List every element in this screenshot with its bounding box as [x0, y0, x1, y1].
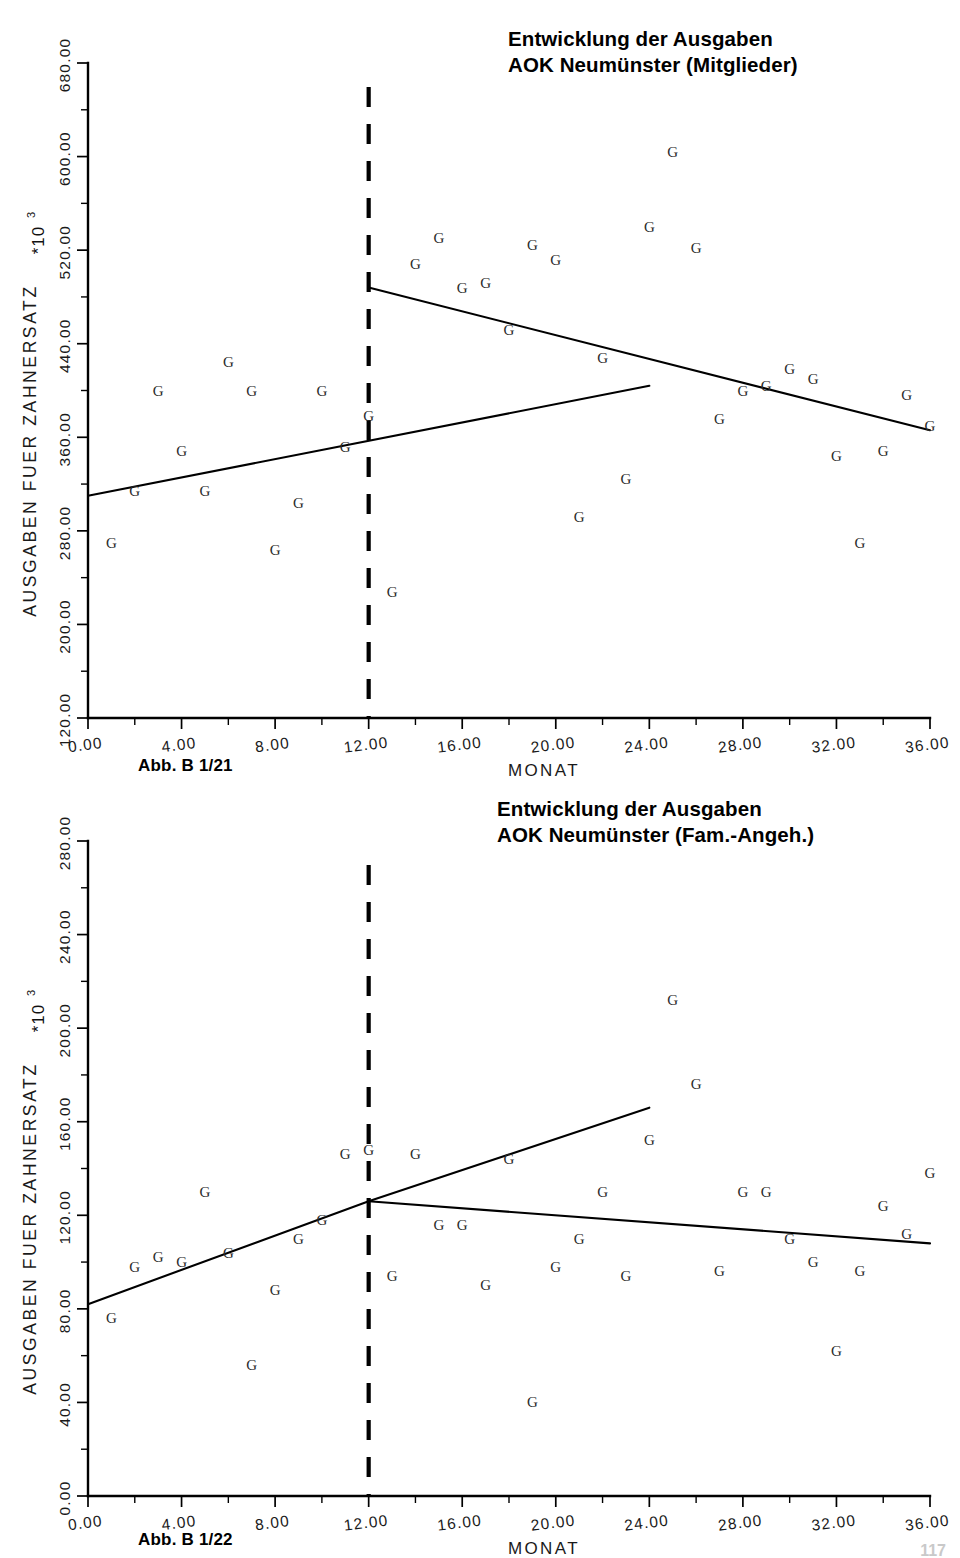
post-trend-declining-line — [369, 1201, 930, 1243]
axes — [88, 841, 930, 1496]
data-point-marker: G — [176, 1254, 187, 1270]
y-tick-label: 280.00 — [56, 816, 73, 871]
figure-title-familienangehoerige: Entwicklung der AusgabenAOK Neumünster (… — [497, 796, 814, 848]
data-point-marker: G — [550, 252, 561, 268]
data-point-marker: G — [714, 1263, 725, 1279]
data-point-marker: G — [761, 378, 772, 394]
y-tick-label: 280.00 — [56, 506, 73, 561]
y-tick-label: 40.00 — [56, 1382, 73, 1427]
x-tick-label: 16.00 — [436, 1511, 483, 1533]
x-tick-label: 8.00 — [254, 734, 291, 755]
figure-mitglieder: 0.004.008.0012.0016.0020.0024.0028.0032.… — [0, 0, 960, 780]
y-axis-title: AUSGABEN FUER ZAHNERSATZ — [20, 284, 40, 616]
data-point-marker: G — [574, 1231, 585, 1247]
data-point-marker: G — [831, 1343, 842, 1359]
data-point-marker: G — [200, 1184, 211, 1200]
data-point-marker: G — [808, 1254, 819, 1270]
data-point-marker: G — [667, 144, 678, 160]
data-point-marker: G — [784, 1231, 795, 1247]
data-point-marker: G — [644, 219, 655, 235]
x-axis-ticks: 0.004.008.0012.0016.0020.0024.0028.0032.… — [67, 1496, 951, 1534]
y-axis-title: AUSGABEN FUER ZAHNERSATZ — [20, 1062, 40, 1394]
x-tick-label: 24.00 — [623, 1511, 670, 1533]
data-point-marker: G — [410, 1146, 421, 1162]
scale-note-base: *10 — [29, 226, 48, 255]
data-point-marker: G — [550, 1259, 561, 1275]
x-tick-label: 20.00 — [530, 733, 577, 755]
data-point-marker: G — [504, 1151, 515, 1167]
data-point-marker: G — [246, 383, 257, 399]
data-point-marker: G — [761, 1184, 772, 1200]
y-tick-label: 200.00 — [56, 1003, 73, 1058]
data-point-marker: G — [925, 418, 936, 434]
y-tick-label: 440.00 — [56, 318, 73, 373]
y-axis-scale-note: *103 — [25, 990, 48, 1032]
x-tick-label: 32.00 — [811, 1511, 858, 1533]
document-page: 0.004.008.0012.0016.0020.0024.0028.0032.… — [0, 0, 960, 1558]
annotations — [88, 87, 930, 718]
data-point-marker: G — [691, 240, 702, 256]
data-point-marker: G — [714, 411, 725, 427]
figure-title-mitglieder: Entwicklung der AusgabenAOK Neumünster (… — [508, 26, 798, 78]
data-point-marker: G — [433, 230, 444, 246]
y-tick-label: 240.00 — [56, 909, 73, 964]
x-tick-label: 20.00 — [530, 1511, 577, 1533]
x-axis-ticks: 0.004.008.0012.0016.0020.0024.0028.0032.… — [67, 718, 951, 756]
data-point-marker: G — [901, 387, 912, 403]
data-point-marker: G — [691, 1076, 702, 1092]
figure-title-line2: AOK Neumünster (Mitglieder) — [508, 53, 798, 76]
data-point-marker: G — [480, 1277, 491, 1293]
x-axis-title: MONAT — [508, 1539, 580, 1558]
data-point-marker: G — [153, 383, 164, 399]
data-point-marker: G — [363, 408, 374, 424]
data-point-marker: G — [644, 1132, 655, 1148]
data-point-marker: G — [737, 1184, 748, 1200]
data-points: GGGGGGGGGGGGGGGGGGGGGGGGGGGGGGGGGGGG — [106, 144, 936, 600]
data-point-marker: G — [223, 1245, 234, 1261]
data-point-marker: G — [854, 1263, 865, 1279]
data-point-marker: G — [410, 256, 421, 272]
data-point-marker: G — [176, 443, 187, 459]
chart-canvas-familienangehoerige: 0.004.008.0012.0016.0020.0024.0028.0032.… — [0, 778, 960, 1558]
data-point-marker: G — [504, 322, 515, 338]
y-axis-ticks: 120.00200.00280.00360.00440.00520.00600.… — [56, 38, 88, 748]
x-tick-label: 36.00 — [904, 733, 951, 755]
data-point-marker: G — [854, 535, 865, 551]
data-point-marker: G — [621, 471, 632, 487]
x-tick-label: 16.00 — [436, 733, 483, 755]
y-tick-label: 0.00 — [56, 1481, 73, 1516]
figure-familienangehoerige: 0.004.008.0012.0016.0020.0024.0028.0032.… — [0, 778, 960, 1558]
x-tick-label: 12.00 — [343, 733, 390, 755]
y-tick-label: 600.00 — [56, 131, 73, 186]
data-point-marker: G — [293, 495, 304, 511]
data-point-marker: G — [293, 1231, 304, 1247]
data-point-marker: G — [200, 483, 211, 499]
axes — [88, 63, 930, 718]
data-point-marker: G — [527, 237, 538, 253]
y-axis-scale-note: *103 — [25, 212, 48, 254]
data-point-marker: G — [457, 280, 468, 296]
y-tick-label: 680.00 — [56, 38, 73, 93]
y-tick-label: 80.00 — [56, 1288, 73, 1333]
x-tick-label: 12.00 — [343, 1511, 390, 1533]
data-point-marker: G — [480, 275, 491, 291]
data-point-marker: G — [153, 1249, 164, 1265]
x-tick-label: 28.00 — [717, 733, 764, 755]
data-point-marker: G — [316, 1212, 327, 1228]
y-tick-label: 360.00 — [56, 412, 73, 467]
y-axis-ticks: 0.0040.0080.00120.00160.00200.00240.0028… — [56, 816, 88, 1516]
data-point-marker: G — [808, 371, 819, 387]
data-point-marker: G — [363, 1142, 374, 1158]
data-point-marker: G — [667, 992, 678, 1008]
figure-caption-familienangehoerige: Abb. B 1/22 — [138, 1530, 233, 1550]
x-tick-label: 8.00 — [254, 1512, 291, 1533]
data-point-marker: G — [878, 1198, 889, 1214]
data-point-marker: G — [387, 1268, 398, 1284]
y-tick-label: 120.00 — [56, 1190, 73, 1245]
post-trend-line — [369, 288, 930, 431]
data-point-marker: G — [901, 1226, 912, 1242]
page-number: 117 — [920, 1542, 946, 1558]
data-point-marker: G — [925, 1165, 936, 1181]
data-point-marker: G — [831, 448, 842, 464]
y-tick-label: 200.00 — [56, 599, 73, 654]
